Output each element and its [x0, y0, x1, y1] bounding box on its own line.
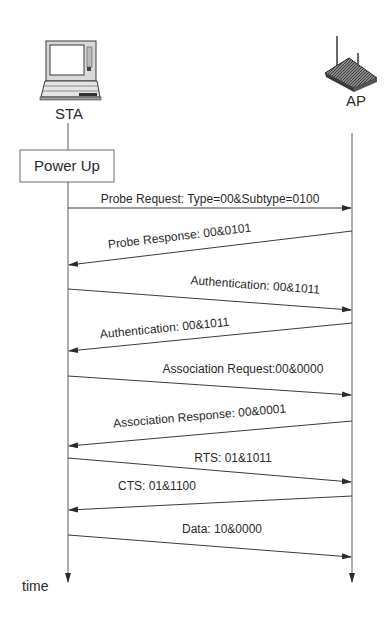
message-label: Probe Response: 00&0101 [107, 221, 252, 252]
participant-label-ap: AP [346, 92, 366, 109]
message-cts: CTS: 01&1100 [69, 479, 352, 510]
message-label: RTS: 01&1011 [194, 451, 272, 465]
message-association-response: Association Response: 00&0001 [69, 401, 352, 446]
power-up-label: Power Up [34, 157, 100, 174]
message-label: Association Response: 00&0001 [113, 401, 287, 430]
sequence-diagram: STA AP Power Up Probe Request: Type=00&S… [0, 0, 389, 620]
message-probe-request: Probe Request: Type=00&Subtype=0100 [68, 192, 351, 208]
message-label: Association Request:00&0000 [163, 362, 324, 376]
message-label: Authentication: 00&1011 [190, 273, 321, 296]
message-association-request: Association Request:00&0000 [68, 362, 351, 395]
message-probe-response: Probe Response: 00&0101 [69, 221, 352, 265]
message-label: Probe Request: Type=00&Subtype=0100 [101, 192, 320, 206]
wireless-router-icon [325, 36, 377, 92]
message-authentication-response: Authentication: 00&1011 [69, 315, 352, 351]
message-authentication-request: Authentication: 00&1011 [68, 273, 351, 310]
laptop-icon [40, 41, 101, 100]
message-label: Data: 10&0000 [182, 522, 262, 536]
message-data: Data: 10&0000 [68, 522, 351, 557]
time-axis-label: time [22, 578, 49, 594]
message-rts: RTS: 01&1011 [68, 451, 351, 482]
participant-label-sta: STA [55, 105, 83, 122]
message-label: CTS: 01&1100 [118, 479, 196, 493]
